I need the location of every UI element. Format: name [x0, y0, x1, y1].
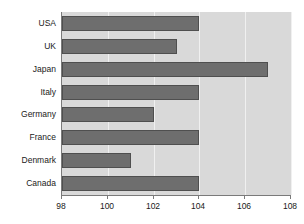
gridline [199, 12, 200, 195]
gridline [245, 12, 246, 195]
bar [62, 85, 199, 100]
category-label-japan: Japan [33, 62, 56, 77]
bar [62, 16, 199, 31]
bar-chart: USAUKJapanItalyGermanyFranceDenmarkCanad… [0, 0, 304, 224]
x-tick-mark [198, 195, 199, 199]
bar [62, 153, 131, 168]
x-tick-label-100: 100 [87, 201, 127, 211]
x-tick-label-102: 102 [133, 201, 173, 211]
plot-area [61, 12, 291, 196]
x-tick-label-98: 98 [41, 201, 81, 211]
category-label-germany: Germany [21, 107, 56, 122]
x-tick-mark [244, 195, 245, 199]
bar [62, 176, 199, 191]
x-tick-label-106: 106 [224, 201, 264, 211]
category-label-italy: Italy [40, 85, 56, 100]
x-tick-mark [107, 195, 108, 199]
bar [62, 62, 268, 77]
category-label-uk: UK [44, 39, 56, 54]
bar [62, 39, 177, 54]
gridline [291, 12, 292, 195]
x-tick-mark [153, 195, 154, 199]
category-label-france: France [30, 130, 56, 145]
bar [62, 107, 154, 122]
category-label-canada: Canada [26, 176, 56, 191]
x-tick-label-108: 108 [270, 201, 304, 211]
x-tick-mark [290, 195, 291, 199]
category-label-usa: USA [39, 16, 56, 31]
bar [62, 130, 199, 145]
x-tick-mark [61, 195, 62, 199]
x-tick-label-104: 104 [178, 201, 218, 211]
category-label-denmark: Denmark [22, 153, 56, 168]
